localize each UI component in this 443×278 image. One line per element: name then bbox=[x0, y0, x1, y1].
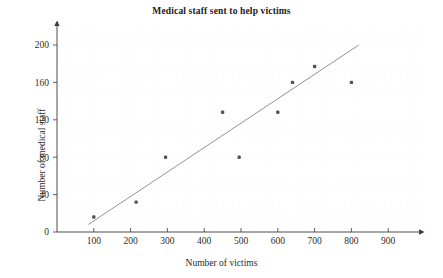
data-point bbox=[237, 156, 240, 159]
y-tick-label: 160 bbox=[35, 78, 50, 88]
data-point bbox=[134, 200, 137, 203]
data-point bbox=[313, 65, 316, 68]
y-tick-label: 40 bbox=[40, 190, 50, 200]
x-tick-label: 400 bbox=[197, 236, 212, 246]
data-point bbox=[350, 81, 353, 84]
data-point bbox=[291, 81, 294, 84]
y-tick-label: 80 bbox=[40, 153, 50, 163]
grid-background bbox=[57, 26, 427, 232]
x-tick-label: 500 bbox=[234, 236, 249, 246]
data-point bbox=[164, 156, 167, 159]
x-tick-label: 900 bbox=[381, 236, 396, 246]
scatter-chart-figure: Medical staff sent to help victims Numbe… bbox=[0, 0, 443, 278]
data-point bbox=[221, 111, 224, 114]
x-tick-label: 800 bbox=[344, 236, 359, 246]
x-tick-label: 100 bbox=[87, 236, 102, 246]
x-tick-label: 600 bbox=[271, 236, 286, 246]
data-point bbox=[92, 215, 95, 218]
x-tick-label: 200 bbox=[123, 236, 138, 246]
y-tick-label: 0 bbox=[44, 227, 49, 237]
y-tick-label: 200 bbox=[35, 40, 50, 50]
plot-area: 100200300400500600700800900 040801201602… bbox=[0, 0, 443, 278]
y-axis-ticks: 04080120160200 bbox=[35, 40, 57, 237]
x-tick-label: 300 bbox=[160, 236, 175, 246]
y-tick-label: 120 bbox=[35, 115, 50, 125]
x-tick-label: 700 bbox=[307, 236, 322, 246]
data-point bbox=[276, 111, 279, 114]
